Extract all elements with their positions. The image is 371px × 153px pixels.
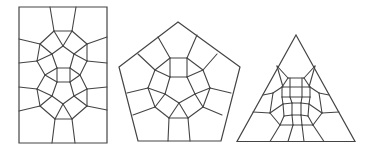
mesh-edge (70, 68, 80, 75)
mesh-edge (19, 39, 40, 44)
mesh-edge (127, 88, 148, 93)
mesh-edge (45, 68, 57, 75)
mesh-edge (284, 115, 292, 116)
mesh-edge (282, 97, 283, 104)
mesh-edge (87, 37, 107, 44)
mesh-edge (290, 97, 292, 103)
mesh-edge (54, 31, 63, 46)
mesh-edge (52, 54, 57, 68)
mesh-edge (19, 61, 37, 63)
mesh-edge (319, 93, 322, 113)
mesh-edge (203, 107, 222, 115)
mesh-edge (63, 96, 74, 104)
mesh-edge (52, 119, 55, 143)
mesh-edge (72, 106, 87, 119)
mesh-edge (40, 31, 54, 44)
mesh-edge (80, 75, 87, 89)
mesh-diagram (0, 0, 371, 153)
mesh-edge (188, 107, 203, 118)
mesh-edge (74, 89, 87, 96)
mesh-edge (70, 82, 74, 96)
mesh-edge (308, 116, 313, 125)
mesh-edge (179, 103, 188, 118)
mesh-edge (148, 70, 155, 88)
mesh-edge (283, 104, 284, 116)
mesh-edge (148, 88, 155, 107)
mesh-edge (37, 75, 45, 89)
mesh-edge (155, 58, 170, 70)
mesh-edge (280, 116, 284, 125)
triangle-mesh-panel (237, 35, 355, 142)
mesh-edge (74, 44, 87, 54)
mesh-edge (50, 7, 54, 31)
mesh-edge (187, 77, 195, 94)
mesh-edge (63, 46, 74, 54)
mesh-edge (52, 96, 63, 104)
pentagon-mesh-outline (119, 22, 240, 141)
mesh-edge (313, 125, 324, 142)
mesh-edge (310, 87, 319, 93)
mesh-edge (292, 115, 293, 125)
mesh-edge (270, 113, 280, 125)
mesh-edge (70, 54, 74, 68)
mesh-edge (148, 88, 165, 94)
mesh-edge (74, 96, 87, 106)
mesh-edge (322, 112, 339, 113)
mesh-edge (283, 103, 292, 104)
mesh-edge (301, 97, 302, 103)
mesh-edge (301, 115, 302, 125)
mesh-edge (301, 115, 308, 116)
mesh-edge (70, 75, 80, 82)
mesh-edge (55, 104, 63, 119)
mesh-edge (187, 58, 203, 70)
mesh-edge (195, 94, 203, 107)
rectangle-mesh-panel (19, 7, 107, 143)
mesh-edge (168, 118, 169, 141)
mesh-edge (288, 125, 293, 142)
mesh-edge (52, 82, 57, 96)
mesh-edge (301, 103, 309, 104)
mesh-edge (165, 94, 179, 103)
mesh-edge (270, 93, 273, 113)
mesh-edge (155, 70, 170, 77)
mesh-edge (63, 31, 72, 46)
mesh-edge (37, 54, 52, 61)
mesh-edge (40, 96, 52, 106)
mesh-edge (40, 106, 55, 119)
mesh-edge (203, 70, 210, 88)
mesh-edge (253, 112, 270, 113)
mesh-edge (37, 44, 40, 61)
mesh-edge (80, 61, 87, 75)
mesh-edge (52, 46, 63, 54)
mesh-edge (72, 31, 87, 44)
mesh-edge (188, 118, 190, 141)
mesh-edge (87, 87, 107, 89)
mesh-edge (37, 89, 52, 96)
mesh-edge (270, 125, 280, 142)
mesh-edge (309, 97, 310, 104)
mesh-edge (187, 35, 197, 58)
pentagon-mesh-panel (119, 22, 240, 141)
mesh-edge (273, 87, 282, 93)
mesh-edge (19, 106, 40, 111)
mesh-edge (63, 104, 72, 119)
mesh-edge (302, 125, 304, 142)
mesh-edge (133, 107, 155, 115)
mesh-edge (87, 61, 107, 63)
mesh-edge (309, 104, 322, 113)
mesh-edge (313, 113, 322, 125)
mesh-edge (263, 93, 273, 95)
mesh-edge (37, 89, 40, 106)
mesh-edge (210, 88, 231, 93)
mesh-edge (179, 94, 195, 103)
mesh-edge (72, 7, 76, 31)
mesh-edge (155, 94, 165, 107)
mesh-edge (87, 106, 107, 110)
mesh-edge (203, 54, 217, 70)
mesh-edge (37, 61, 45, 75)
mesh-edge (155, 107, 169, 118)
mesh-edge (19, 87, 37, 89)
rectangle-mesh-outline (19, 7, 107, 143)
mesh-edge (158, 37, 170, 58)
mesh-edge (72, 119, 75, 143)
